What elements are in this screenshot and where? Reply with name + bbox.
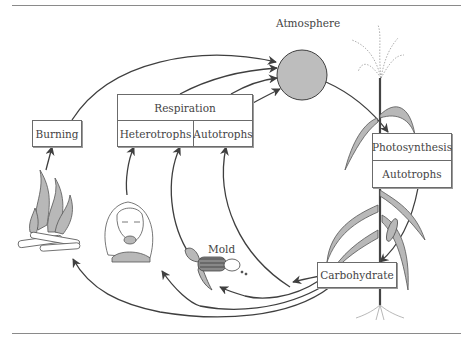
respiration-box: Respiration Heterotrophs Autotrophs xyxy=(117,94,253,147)
burning-box: Burning xyxy=(32,120,82,147)
photosynthesis-box: Photosynthesis Autotrophs xyxy=(372,133,452,188)
arrow-carbohydrate-to-plant xyxy=(293,276,320,282)
atmosphere-circle xyxy=(277,50,327,100)
heterotrophs-label: Heterotrophs xyxy=(118,121,194,147)
arrow-respiration-to-atmosphere-2 xyxy=(231,78,277,94)
atmosphere-label: Atmosphere xyxy=(276,17,340,29)
campfire-illustration xyxy=(18,170,80,251)
mold-label: Mold xyxy=(208,243,235,255)
arrow-fire-to-burning xyxy=(46,147,52,170)
respiration-label: Respiration xyxy=(118,95,252,121)
burning-label: Burning xyxy=(33,121,81,146)
photosynthesis-label: Photosynthesis xyxy=(373,134,451,161)
person-eating-illustration xyxy=(105,202,153,262)
arrow-respiration-to-atmosphere-3 xyxy=(253,89,280,103)
arrow-mold-to-heterotrophs xyxy=(171,147,190,255)
carbohydrate-label: Carbohydrate xyxy=(318,263,396,287)
carbohydrate-box: Carbohydrate xyxy=(317,262,397,288)
arrow-person-to-heterotrophs xyxy=(126,147,134,195)
arrow-atmosphere-to-photosynthesis xyxy=(326,82,388,132)
autotrophs-photosynthesis-label: Autotrophs xyxy=(373,161,451,187)
autotrophs-respiration-label: Autotrophs xyxy=(194,121,252,147)
